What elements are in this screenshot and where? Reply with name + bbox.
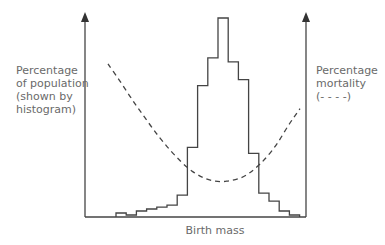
chart-svg — [0, 0, 385, 245]
left-axis-label-line: histogram) — [16, 103, 89, 116]
left-axis-label: Percentage of population (shown by histo… — [16, 64, 89, 116]
mortality-curve — [108, 64, 300, 182]
right-axis-label: Percentage mortality (- - - -) — [316, 64, 378, 103]
right-axis-label-line: (- - - -) — [316, 90, 378, 103]
left-axis-label-line: of population — [16, 77, 89, 90]
right-axis-arrow-icon — [302, 12, 310, 22]
right-axis-label-line: Percentage — [316, 64, 378, 77]
right-axis-label-line: mortality — [316, 77, 378, 90]
left-axis-label-line: Percentage — [16, 64, 89, 77]
left-axis-label-line: (shown by — [16, 90, 89, 103]
x-axis-label: Birth mass — [170, 224, 260, 237]
left-axis-arrow-icon — [81, 12, 89, 22]
histogram — [116, 18, 300, 217]
